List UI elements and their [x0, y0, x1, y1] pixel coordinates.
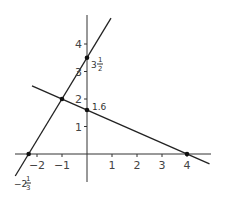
lines	[15, 18, 209, 176]
annotation-shallow-y: 1.6	[92, 102, 107, 112]
annotation-steep-y-num: 1	[98, 56, 102, 64]
x-tick-label: 1	[109, 159, 116, 172]
labels: −2−112341234	[29, 38, 191, 172]
point-y-intercept-shallow	[85, 108, 90, 113]
annotation-steep-y-den: 2	[98, 65, 102, 73]
annotation-steep-x-den: 3	[26, 184, 30, 192]
point-intersection	[60, 97, 65, 102]
point-x-intercept-steep	[26, 152, 31, 157]
x-tick-label: 4	[184, 159, 191, 172]
axes	[15, 15, 211, 182]
graph: −2−112341234 3 1 2 −2 1 3 1.6	[0, 0, 232, 202]
y-tick-label: 4	[75, 38, 82, 51]
y-tick-label: 2	[75, 93, 82, 106]
point-y-intercept-steep	[85, 55, 90, 60]
x-tick-label: −1	[54, 159, 70, 172]
x-tick-label: −2	[29, 159, 45, 172]
annotation-steep-x-num: 1	[26, 175, 30, 183]
points	[26, 55, 189, 156]
x-tick-label: 3	[159, 159, 166, 172]
x-tick-label: 2	[134, 159, 141, 172]
shallow-line	[32, 86, 210, 164]
y-tick-label: 3	[75, 66, 82, 79]
ticks	[37, 44, 187, 157]
annotation-steep-y-whole: 3	[91, 60, 97, 70]
point-x-intercept-shallow	[185, 152, 190, 157]
y-tick-label: 1	[75, 121, 82, 134]
